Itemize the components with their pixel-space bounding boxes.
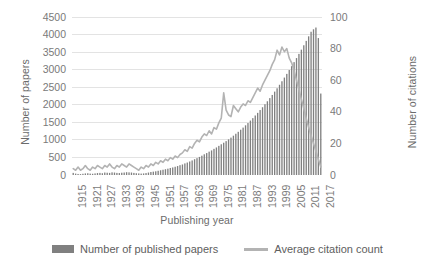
bar xyxy=(162,170,163,175)
y-axis-left-ticks: 050010001500200025003000350040004500 xyxy=(20,0,66,190)
legend-label-citations: Average citation count xyxy=(274,243,383,255)
x-axis-tick-label: 1933 xyxy=(121,185,132,208)
legend-bar-swatch-icon xyxy=(52,245,74,253)
x-axis-tick-label: 2011 xyxy=(310,185,321,208)
bar xyxy=(128,172,129,175)
bar xyxy=(73,173,74,175)
bar xyxy=(257,113,258,175)
bar xyxy=(281,81,282,175)
bar xyxy=(172,167,173,175)
bar xyxy=(255,115,256,175)
y-axis-right-tick-label: 40 xyxy=(330,106,342,117)
y-axis-right-tick-label: 80 xyxy=(330,43,342,54)
bar xyxy=(121,173,122,175)
bar xyxy=(208,152,209,175)
bar xyxy=(99,173,100,175)
bar xyxy=(75,174,76,175)
bar xyxy=(293,62,294,175)
x-axis-tick-label: 1975 xyxy=(223,185,234,208)
bar xyxy=(313,29,314,175)
y-axis-right-tick-label: 60 xyxy=(330,75,342,86)
bar xyxy=(269,98,270,175)
bar xyxy=(206,153,207,175)
bar xyxy=(213,149,214,175)
bar xyxy=(204,154,205,175)
bar xyxy=(306,41,307,175)
bar xyxy=(291,66,292,175)
bar xyxy=(141,174,142,175)
chart-canvas xyxy=(72,17,322,175)
bar xyxy=(221,144,222,175)
bar xyxy=(240,130,241,175)
bar xyxy=(267,101,268,175)
bar xyxy=(87,173,88,175)
bar xyxy=(94,173,95,175)
legend-item-papers: Number of published papers xyxy=(52,243,218,255)
bar xyxy=(286,74,287,175)
bar xyxy=(308,36,309,175)
y-axis-right-ticks: 020406080100 xyxy=(330,0,370,190)
x-axis-ticks: 1915192119271933193919451951195719631969… xyxy=(72,178,322,214)
bar xyxy=(245,125,246,175)
bar xyxy=(179,165,180,175)
bar xyxy=(170,168,171,175)
bar xyxy=(247,123,248,175)
bar xyxy=(262,107,263,175)
legend-item-citations: Average citation count xyxy=(244,243,383,255)
bar xyxy=(225,141,226,175)
bar xyxy=(145,173,146,175)
x-axis-tick-label: 2005 xyxy=(296,185,307,208)
bar xyxy=(276,88,277,175)
bar xyxy=(102,173,103,175)
bar xyxy=(148,173,149,175)
plot-area xyxy=(72,17,322,175)
bar xyxy=(150,172,151,175)
y-axis-left-tick-label: 3500 xyxy=(20,47,66,58)
x-axis-tick-label: 2017 xyxy=(325,185,336,208)
bar xyxy=(155,171,156,175)
bar xyxy=(177,166,178,175)
x-axis-tick-label: 1957 xyxy=(179,185,190,208)
bar xyxy=(238,132,239,175)
bar xyxy=(136,173,137,175)
bar xyxy=(199,157,200,175)
bar xyxy=(279,85,280,175)
bar xyxy=(109,173,110,175)
bar xyxy=(133,173,134,175)
y-axis-right-tick-label: 20 xyxy=(330,138,342,149)
bar xyxy=(284,78,285,175)
bar xyxy=(158,171,159,175)
bar xyxy=(184,163,185,175)
x-axis-tick-label: 1951 xyxy=(165,185,176,208)
bar xyxy=(182,164,183,175)
x-axis-tick-label: 1963 xyxy=(194,185,205,208)
y-axis-left-tick-label: 0 xyxy=(20,170,66,181)
bar xyxy=(274,92,275,175)
bar xyxy=(111,172,112,175)
x-axis-title: Publishing year xyxy=(72,214,322,226)
y-axis-right-title: Number of citations xyxy=(406,22,418,182)
legend-label-papers: Number of published papers xyxy=(80,243,218,255)
bar xyxy=(228,139,229,175)
x-axis-tick-label: 1987 xyxy=(252,185,263,208)
y-axis-left-tick-label: 2000 xyxy=(20,99,66,110)
bar xyxy=(298,54,299,175)
bar xyxy=(191,160,192,175)
bar xyxy=(252,118,253,175)
chart-container: Number of papers Number of citations Pub… xyxy=(0,0,435,280)
bar xyxy=(92,174,93,175)
bar xyxy=(85,173,86,175)
bar xyxy=(174,167,175,175)
bar xyxy=(310,32,311,175)
bar xyxy=(235,134,236,175)
bar xyxy=(153,172,154,175)
bar xyxy=(218,146,219,175)
x-axis-tick-label: 1939 xyxy=(135,185,146,208)
y-axis-left-tick-label: 4500 xyxy=(20,12,66,23)
bar xyxy=(160,170,161,175)
y-axis-right-tick-label: 0 xyxy=(330,170,336,181)
bar xyxy=(104,173,105,175)
bar xyxy=(223,143,224,175)
bar xyxy=(194,159,195,175)
bar xyxy=(167,169,168,175)
